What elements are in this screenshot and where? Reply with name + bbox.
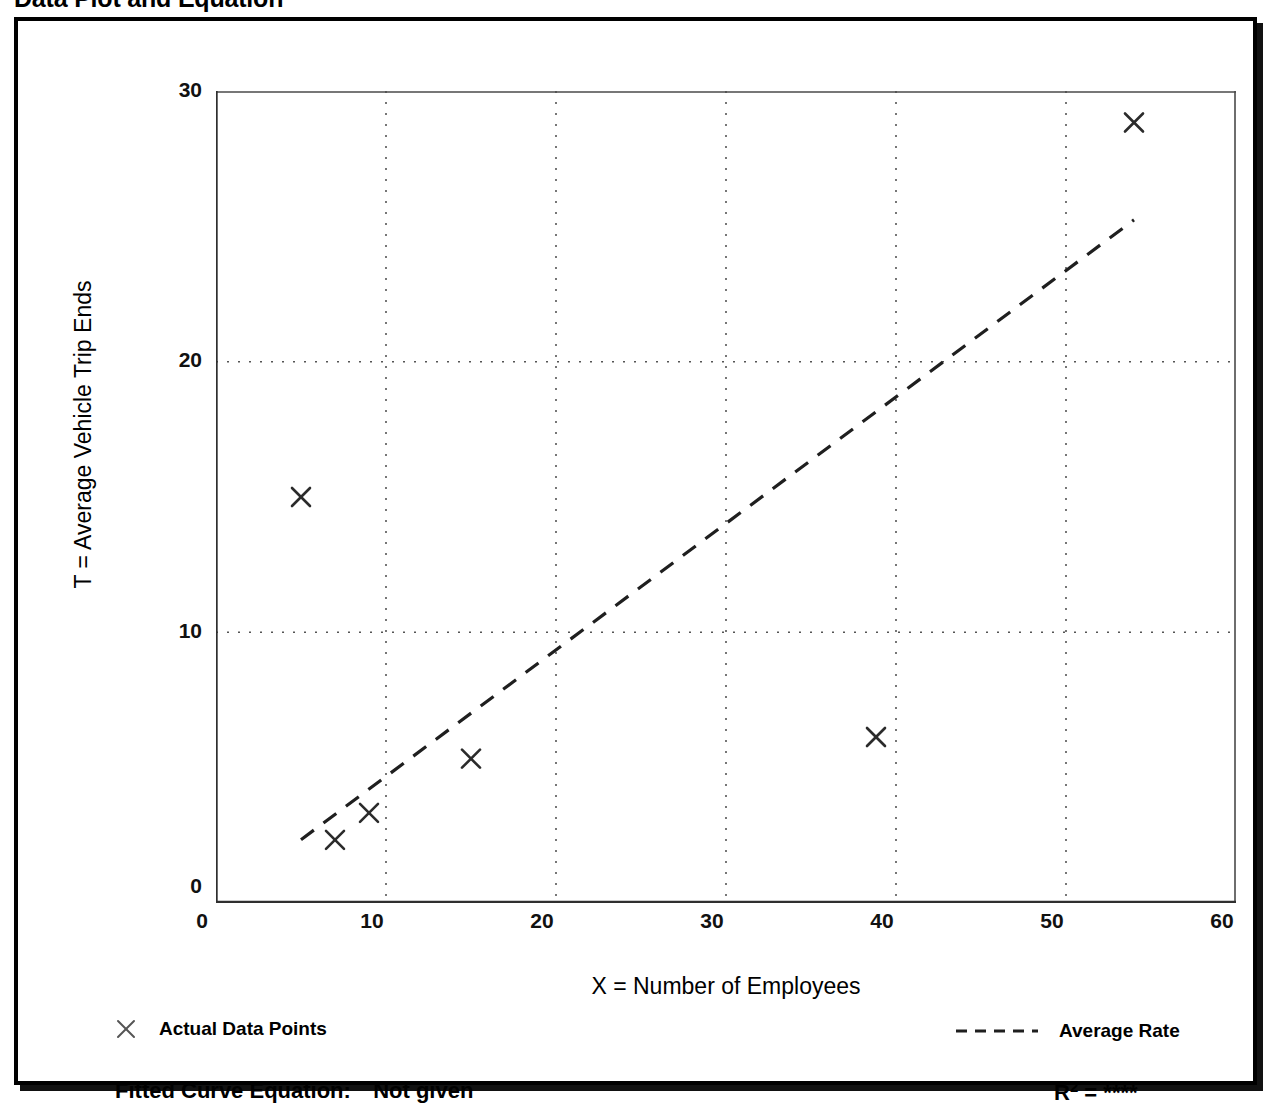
x-tick-label-20: 20 — [512, 909, 572, 933]
y-tick-label-10: 10 — [156, 619, 202, 643]
frame-shadow-right — [1257, 23, 1263, 1091]
data-point-marker — [462, 750, 480, 768]
legend-average-rate: Average Rate — [955, 1020, 1180, 1042]
r-squared-label: R — [1054, 1080, 1070, 1105]
scatter-plot — [216, 91, 1236, 903]
y-axis-title: T = Average Vehicle Trip Ends — [70, 175, 97, 695]
data-point-marker — [292, 488, 310, 506]
data-point-marker — [326, 831, 344, 849]
data-point-marker — [867, 728, 885, 746]
data-point-marker — [1125, 114, 1143, 132]
x-tick-label-50: 50 — [1022, 909, 1082, 933]
chart-frame: 30 20 10 0 0 10 20 30 40 50 60 T = Avera… — [14, 17, 1257, 1085]
legend-label-actual-points: Actual Data Points — [159, 1018, 327, 1040]
x-tick-label-60: 60 — [1192, 909, 1252, 933]
page-title: Data Plot and Equation — [14, 0, 283, 13]
y-tick-label-20: 20 — [156, 348, 202, 372]
r-squared-exponent: 2 — [1070, 1078, 1078, 1095]
x-axis-title: X = Number of Employees — [216, 973, 1236, 1000]
average-rate-trend-line — [301, 220, 1134, 840]
data-point-markers — [292, 114, 1143, 849]
x-tick-label-10: 10 — [342, 909, 402, 933]
fitted-curve-equation-value: Not given — [373, 1078, 473, 1103]
data-point-marker — [360, 804, 378, 822]
y-tick-label-0: 0 — [156, 874, 202, 898]
x-tick-label-30: 30 — [682, 909, 742, 933]
dashed-line-icon — [955, 1026, 1039, 1036]
x-tick-label-0: 0 — [172, 909, 232, 933]
r-squared-value-row: R2 = **** — [1054, 1078, 1138, 1106]
plot-area — [216, 91, 1236, 903]
legend-label-average-rate: Average Rate — [1059, 1020, 1180, 1042]
x-tick-label-40: 40 — [852, 909, 912, 933]
x-marker-icon — [115, 1018, 137, 1040]
y-tick-label-30: 30 — [156, 78, 202, 102]
gridlines — [216, 91, 1236, 903]
legend-actual-points: Actual Data Points — [115, 1018, 327, 1040]
r-squared-equals: = — [1084, 1080, 1097, 1105]
r-squared-value: **** — [1103, 1080, 1137, 1105]
fitted-curve-equation-label: Fitted Curve Equation: — [115, 1078, 351, 1103]
fitted-curve-equation: Fitted Curve Equation: Not given — [115, 1078, 473, 1104]
